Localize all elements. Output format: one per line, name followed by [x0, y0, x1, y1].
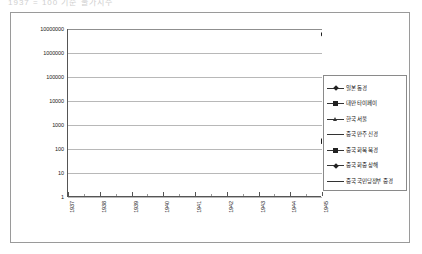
legend: 일본 동경대만 타이페이한국 서울중국 만주 신경중국 화북 북경중국 화중 상… [323, 75, 407, 191]
x-axis-minor-tick [274, 194, 275, 196]
x-axis-minor-tick [243, 194, 244, 196]
legend-marker-icon [327, 130, 344, 139]
y-axis-tick-label: 10000 [49, 98, 64, 104]
legend-item-label: 중국 만주 신경 [346, 130, 378, 139]
x-axis-tick [227, 192, 228, 196]
x-axis-tick-label: 1937 [69, 201, 75, 213]
x-axis-minor-tick [147, 194, 148, 196]
legend-item[interactable]: 중국 국민당정부 중경 [327, 174, 403, 188]
legend-item[interactable]: 중국 화북 북경 [327, 143, 403, 157]
x-axis-minor-tick [179, 194, 180, 196]
gridline [68, 173, 322, 174]
x-axis-minor-tick [116, 194, 117, 196]
gridline [68, 125, 322, 126]
legend-marker-icon [327, 146, 344, 155]
x-axis-tick-label: 1944 [291, 201, 297, 213]
gridline [68, 29, 322, 30]
y-axis-tick-label: 10 [58, 170, 64, 176]
plot-background [68, 29, 321, 196]
x-axis-minor-tick [306, 194, 307, 196]
x-axis-tick [163, 192, 164, 196]
y-axis-tick-label: 1000000 [43, 50, 64, 56]
x-axis-tick-label: 1945 [323, 201, 329, 213]
legend-item-label: 일본 동경 [346, 84, 367, 93]
legend-item[interactable]: 한국 서울 [327, 112, 403, 126]
x-axis-tick-label: 1940 [164, 201, 170, 213]
x-axis-tick [259, 192, 260, 196]
x-axis-minor-tick [84, 194, 85, 196]
legend-item[interactable]: 중국 만주 신경 [327, 128, 403, 142]
chart-frame: 110100100010000100000100000010000000 193… [10, 12, 410, 243]
x-axis-tick [132, 192, 133, 196]
y-axis-tick-label: 1 [61, 194, 64, 200]
gridline [68, 149, 322, 150]
x-axis-tick [322, 192, 323, 196]
x-axis-tick-label: 1943 [260, 201, 266, 213]
y-axis-labels: 110100100010000100000100000010000000 [11, 29, 64, 197]
gridline [68, 53, 322, 54]
legend-item-label: 중국 화북 북경 [346, 146, 378, 155]
x-axis-labels: 193719381939194019411942194319441945 [67, 199, 321, 239]
x-axis-minor-tick [211, 194, 212, 196]
legend-item-label: 중국 화중 상해 [346, 161, 378, 170]
x-axis-tick-label: 1939 [133, 201, 139, 213]
gridline [68, 197, 322, 198]
x-axis-tick [290, 192, 291, 196]
x-axis-tick-label: 1942 [228, 201, 234, 213]
legend-item[interactable]: 대만 타이페이 [327, 97, 403, 111]
plot-area [67, 29, 321, 197]
legend-item[interactable]: 중국 화중 상해 [327, 159, 403, 173]
y-axis-tick-label: 100 [55, 146, 64, 152]
y-axis-tick-label: 10000000 [40, 26, 64, 32]
x-axis-tick-label: 1941 [196, 201, 202, 213]
y-axis-tick-label: 1000 [52, 122, 64, 128]
x-axis-tick-label: 1938 [101, 201, 107, 213]
legend-marker-icon [327, 115, 344, 124]
legend-item-label: 대만 타이페이 [346, 99, 376, 108]
legend-marker-icon [327, 84, 344, 93]
gridline [68, 77, 322, 78]
legend-item-label: 한국 서울 [346, 115, 367, 124]
cut-off-title-strip: 1937 = 100 기준 물가지수 [0, 0, 422, 10]
x-axis-tick [195, 192, 196, 196]
x-axis-tick [68, 192, 69, 196]
legend-marker-icon [327, 161, 344, 170]
legend-marker-icon [327, 177, 344, 186]
x-axis-tick [100, 192, 101, 196]
gridline [68, 101, 322, 102]
title-text: 1937 = 100 기준 물가지수 [0, 0, 422, 7]
legend-item-label: 중국 국민당정부 중경 [346, 177, 392, 186]
legend-marker-icon [327, 99, 344, 108]
y-axis-tick-label: 100000 [46, 74, 64, 80]
legend-item[interactable]: 일본 동경 [327, 81, 403, 95]
